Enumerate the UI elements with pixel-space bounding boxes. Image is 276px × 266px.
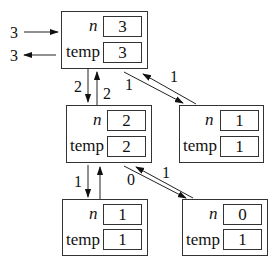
frame-n3: n 3 temp 3 bbox=[62, 12, 148, 69]
edge-label: 1 bbox=[170, 68, 178, 85]
temp-label: temp bbox=[66, 42, 100, 61]
n-label: n bbox=[209, 204, 218, 223]
edge-call-n1-bottom: 1 bbox=[74, 165, 88, 197]
n-label: n bbox=[93, 110, 102, 129]
n-value: 1 bbox=[118, 205, 127, 224]
frame-n2: n 2 temp 2 bbox=[67, 106, 152, 163]
n-value: 2 bbox=[122, 111, 131, 130]
temp-label: temp bbox=[70, 136, 104, 155]
edge-label: 2 bbox=[74, 78, 82, 95]
temp-value: 2 bbox=[122, 137, 131, 156]
temp-value: 1 bbox=[235, 137, 244, 156]
edge-label: 3 bbox=[10, 24, 18, 41]
edge-label: 1 bbox=[74, 173, 82, 190]
edge-label: 2 bbox=[103, 85, 111, 102]
edge-call-n2: 2 bbox=[74, 69, 88, 102]
n-label: n bbox=[205, 110, 214, 129]
edge-label: 1 bbox=[125, 76, 133, 93]
frame-n1-bottom: n 1 temp 1 bbox=[63, 200, 148, 256]
edge-label: 0 bbox=[127, 171, 135, 188]
edge-return-n3: 3 bbox=[10, 47, 56, 64]
temp-label: temp bbox=[186, 230, 220, 249]
n-value: 0 bbox=[238, 205, 247, 224]
edge-return-n2: 2 bbox=[97, 72, 111, 105]
edge-label: 3 bbox=[10, 47, 18, 64]
edge-call-n3: 3 bbox=[10, 24, 58, 41]
temp-value: 1 bbox=[118, 230, 127, 249]
frame-n1-right: n 1 temp 1 bbox=[180, 106, 264, 163]
recursion-diagram: n 3 temp 3 n 2 temp 2 n 1 temp 1 n 1 tem… bbox=[0, 0, 276, 266]
temp-label: temp bbox=[66, 230, 100, 249]
edge-call-n0: 0 bbox=[124, 166, 186, 198]
n-label: n bbox=[89, 204, 98, 223]
temp-value: 1 bbox=[238, 230, 247, 249]
n-label: n bbox=[89, 16, 98, 35]
frame-n0: n 0 temp 1 bbox=[183, 200, 268, 256]
edge-label: 1 bbox=[162, 164, 170, 181]
n-value: 3 bbox=[118, 17, 127, 36]
temp-value: 3 bbox=[118, 43, 127, 62]
n-value: 1 bbox=[235, 111, 244, 130]
temp-label: temp bbox=[183, 136, 217, 155]
edge-return-n0: 1 bbox=[136, 164, 193, 198]
